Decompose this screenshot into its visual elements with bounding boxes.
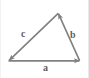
- vector-c-line: [58, 14, 79, 61]
- vector-b-line: [9, 13, 58, 60]
- vector-label-a: a: [43, 63, 48, 73]
- vector-label-b: b: [70, 30, 76, 40]
- vector-triangle-diagram: c b a: [0, 0, 89, 78]
- vector-label-c: c: [21, 29, 25, 39]
